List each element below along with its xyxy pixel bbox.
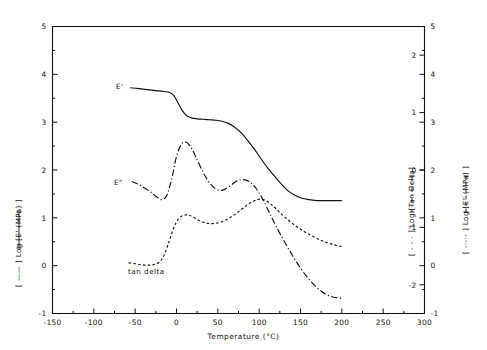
y-axis-title-left: [ —— ] Log [E' (MPa) ] [14, 199, 23, 287]
curve-label-e-double-prime: E" [114, 178, 123, 187]
y-tick-label-left: 3 [41, 118, 46, 127]
y-tick-label-right-outer: -1 [431, 309, 439, 318]
y-axis-title-right-outer: [ -·-·- ] Log [E" (MPa) ] [461, 166, 470, 254]
x-tick-label: 200 [334, 318, 349, 327]
y-tick-label-left: 5 [41, 22, 46, 31]
y-tick-label-left: 2 [41, 166, 46, 175]
y-tick-label-right-outer: 4 [431, 70, 436, 79]
plot-frame [53, 27, 425, 314]
y-tick-label-left: -1 [39, 309, 47, 318]
x-tick-label: 150 [293, 318, 308, 327]
x-tick-label: 50 [213, 318, 223, 327]
y-tick-label-right-outer: 5 [431, 22, 436, 31]
x-tick-label: 100 [252, 318, 267, 327]
y-tick-label-right-outer: 0 [431, 261, 436, 270]
x-tick-label: 250 [376, 318, 391, 327]
x-tick-label: -50 [129, 318, 142, 327]
y-tick-label-right-inner: 2 [411, 51, 416, 60]
y-tick-label-left: 1 [41, 214, 46, 223]
x-axis-title: Temperature (°C) [0, 332, 487, 341]
y-tick-label-right-inner: -2 [409, 281, 417, 290]
curve-tan-delta [129, 199, 342, 265]
x-tick-label: 300 [417, 318, 432, 327]
axes-group: -150-100-50050100150200250300-1012345-10… [17, 22, 469, 327]
y-tick-label-right-outer: 1 [431, 214, 436, 223]
x-tick-label: -150 [44, 318, 62, 327]
curve-label-tan-delta: tan delta [128, 267, 165, 276]
y-tick-label-right-outer: 3 [431, 118, 436, 127]
y-tick-label-right-outer: 2 [431, 166, 436, 175]
y-tick-label-left: 4 [41, 70, 46, 79]
x-tick-label: 0 [174, 318, 179, 327]
dma-chart-figure: -150-100-50050100150200250300-1012345-10… [0, 0, 487, 350]
x-tick-label: -100 [85, 318, 103, 327]
y-tick-label-right-inner: 1 [411, 108, 416, 117]
curve-e-prime [130, 88, 342, 201]
y-axis-title-right-inner: [ - - - ] Log [Tan Delta] [407, 167, 416, 256]
y-tick-label-left: 0 [41, 261, 46, 270]
curve-label-e-prime: E' [116, 82, 124, 91]
